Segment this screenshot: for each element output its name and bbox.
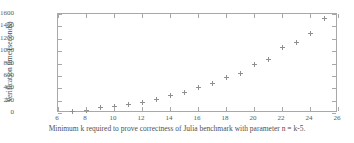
y-axis-tick-labels: 02004006008001000120014001600 (0, 0, 354, 143)
y-tick-label: 1600 (0, 9, 14, 17)
chart-figure: 68101214161820222426 0200400600800100012… (0, 0, 354, 143)
x-axis-label: Minimum k required to prove correctness … (0, 124, 354, 134)
y-tick-label: 0 (0, 108, 14, 116)
y-axis-label: Verification time (seconds) (5, 21, 15, 102)
